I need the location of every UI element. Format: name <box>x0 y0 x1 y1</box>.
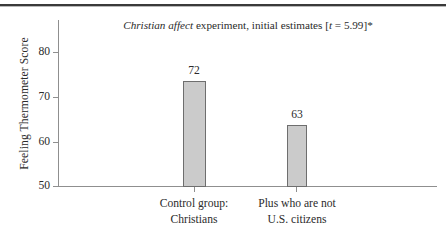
y-tick-label-60: 60 <box>26 135 50 148</box>
y-tick-mark-80 <box>53 52 59 53</box>
y-tick-label-70: 70 <box>26 90 50 103</box>
chart-title: Christian affect experiment, initial est… <box>58 18 438 32</box>
x-tick-mark-2 <box>296 187 297 192</box>
y-tick-mark-60 <box>53 142 59 143</box>
y-tick-label-50: 50 <box>26 179 50 192</box>
x-tick-mark-1 <box>194 187 195 192</box>
bar-value-label-1: 72 <box>171 64 217 77</box>
x-category-label-2-line-2: U.S. citizens <box>233 212 361 228</box>
y-tick-label-80: 80 <box>26 45 50 58</box>
bar-control-group-christians <box>183 81 206 187</box>
y-tick-mark-50 <box>53 186 59 187</box>
y-axis-line <box>58 20 59 187</box>
bar-value-label-2: 63 <box>274 108 320 121</box>
top-rule-shadow <box>0 6 446 7</box>
y-tick-mark-70 <box>53 97 59 98</box>
x-category-label-2: Plus who are not U.S. citizens <box>233 196 361 227</box>
figure-container: Christian affect experiment, initial est… <box>0 0 446 238</box>
y-axis-label: Feeling Thermometer Score <box>18 14 31 194</box>
x-category-label-2-line-1: Plus who are not <box>233 196 361 212</box>
chart-title-italic-lead: Christian affect <box>123 19 193 31</box>
chart-title-plain-mid: experiment, initial estimates [ <box>193 19 329 31</box>
chart-title-plain-tail: = 5.99]* <box>332 19 373 31</box>
x-axis-line <box>58 186 437 187</box>
bar-plus-non-us-citizens <box>287 125 307 187</box>
